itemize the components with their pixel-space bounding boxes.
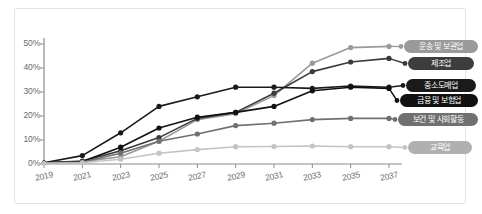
data-point [118, 130, 123, 135]
legend-marker [399, 44, 404, 49]
legend-item-5[interactable]: 교육업 [408, 141, 472, 154]
legend-marker [403, 145, 408, 150]
data-point [233, 110, 238, 115]
legend-marker [393, 117, 398, 122]
data-point [271, 121, 276, 126]
data-point [310, 117, 315, 122]
legend-marker [403, 61, 408, 66]
data-point [42, 161, 46, 165]
data-point [310, 143, 315, 148]
data-point [310, 61, 315, 66]
legend-item-3[interactable]: 금융 및 보험업 [400, 94, 478, 107]
legend-marker [401, 83, 406, 88]
y-axis-label: 50% [8, 38, 40, 48]
legend-item-1[interactable]: 제조업 [408, 57, 474, 70]
data-point [80, 153, 85, 158]
series-line [44, 46, 389, 162]
series-2 [42, 83, 392, 165]
legend-marker [395, 98, 400, 103]
legend-connector [389, 58, 405, 63]
series-layer [42, 44, 392, 166]
data-point [271, 85, 276, 90]
data-point [156, 125, 161, 130]
data-point [348, 85, 353, 90]
y-axis-label: 30% [8, 86, 40, 96]
data-point [348, 144, 353, 149]
legend-item-0[interactable]: 운송 및 보관업 [404, 40, 478, 53]
y-axis-label: 0% [8, 158, 40, 168]
data-point [118, 157, 123, 162]
data-point [271, 104, 276, 109]
data-point [348, 116, 353, 121]
data-point [156, 151, 161, 156]
y-axis-label: 20% [8, 110, 40, 120]
y-axis-label: 40% [8, 62, 40, 72]
data-point [195, 94, 200, 99]
series-3 [42, 85, 392, 165]
legend-connector [389, 147, 405, 148]
data-point [156, 104, 161, 109]
data-point [118, 151, 123, 156]
data-point [195, 147, 200, 152]
data-point [233, 144, 238, 149]
data-point [195, 131, 200, 136]
data-point [118, 145, 123, 150]
data-point [310, 88, 315, 93]
legend-item-2[interactable]: 중소도매업 [406, 79, 476, 92]
data-point [80, 160, 85, 165]
data-point [233, 123, 238, 128]
data-point [156, 139, 161, 144]
data-point [310, 69, 315, 74]
y-axis-label: 10% [8, 134, 40, 144]
data-point [271, 144, 276, 149]
series-line [44, 86, 389, 163]
data-point [348, 59, 353, 64]
series-line [44, 87, 389, 163]
data-point [195, 115, 200, 120]
data-point [348, 45, 353, 50]
legend-item-4[interactable]: 보건 및 사회활동 [398, 113, 478, 126]
series-5 [42, 143, 392, 165]
data-point [271, 91, 276, 96]
data-point [233, 85, 238, 90]
